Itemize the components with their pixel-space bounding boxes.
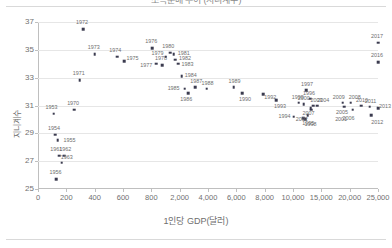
data-point[interactable] [305,89,308,92]
data-point-label: 1962 [59,146,71,152]
x-tickmark-600 [123,189,124,192]
x-tick-label-4000: 4,000 [199,194,218,202]
y-tickmark-35 [35,50,38,51]
gridline-y-33 [38,78,378,79]
figure-top-rule [6,6,386,7]
data-point-label: 1977 [140,62,152,68]
data-point[interactable] [351,108,354,111]
data-point-label: 2013 [379,103,391,109]
data-point[interactable] [52,113,55,116]
data-point[interactable] [169,51,172,54]
data-point[interactable] [309,107,312,110]
x-tick-label-200: 200 [60,194,73,202]
data-point-label: 2012 [371,119,383,125]
data-point[interactable] [155,62,158,65]
data-point[interactable] [377,61,380,64]
data-point[interactable] [275,99,278,102]
y-axis-label: 지니계수 [13,110,22,138]
data-point[interactable] [232,86,235,89]
data-point-label: 1998 [304,121,316,127]
data-point[interactable] [78,79,81,82]
data-point-label: 1955 [64,137,76,143]
data-point[interactable] [54,133,57,136]
x-tick-label-6000: 6,000 [227,194,246,202]
y-tick-label-37: 37 [25,18,34,26]
x-tick-label-25000: 25,000 [367,194,390,202]
x-tickmark-10000 [293,189,294,192]
y-tick-label-31: 31 [25,102,34,110]
x-axis-label: 1인당 GDP(달러) [0,216,392,226]
data-point-label: 1973 [88,44,100,50]
y-tick-label-27: 27 [25,157,34,165]
data-point[interactable] [164,55,167,58]
data-point[interactable] [183,88,186,91]
data-point[interactable] [187,92,190,95]
data-point-label: 1975 [126,55,138,61]
data-point[interactable] [93,53,96,56]
data-point-label: 1997 [301,81,313,87]
gridline-y-27 [38,161,378,162]
data-point[interactable] [82,28,85,31]
data-point-label: 1979 [152,50,164,56]
data-point-label: 2016 [371,52,383,58]
data-point[interactable] [342,101,345,104]
data-point[interactable] [61,161,64,164]
x-tickmark-25000 [378,189,379,192]
data-point-label: 2006 [343,115,355,121]
x-tickmark-400 [95,189,96,192]
data-point-label: 2000 [298,95,310,101]
data-point[interactable] [241,92,244,95]
data-point[interactable] [55,178,58,181]
data-point[interactable] [377,42,380,45]
data-point-label: 2002 [296,116,308,122]
data-point-label: 2007 [303,110,315,116]
x-tickmark-15000 [321,189,322,192]
data-point[interactable] [205,88,208,91]
data-point[interactable] [360,104,363,107]
data-point-label: 1987 [190,78,202,84]
x-tick-label-400: 400 [88,194,101,202]
data-point-label: 1986 [180,96,192,102]
data-point-label: 1954 [48,125,60,131]
y-tickmark-27 [35,161,38,162]
data-point[interactable] [343,106,346,109]
data-point[interactable] [174,58,177,61]
data-point[interactable] [73,108,76,111]
data-point-label: 1980 [162,43,174,49]
y-tickmark-29 [35,133,38,134]
data-point-label: 1989 [229,78,241,84]
data-point[interactable] [316,104,319,107]
data-point[interactable] [312,104,315,107]
data-point[interactable] [172,53,175,56]
data-point[interactable] [302,103,305,106]
data-point[interactable] [123,60,126,63]
data-point[interactable] [116,55,119,58]
data-point[interactable] [297,101,300,104]
data-point-label: 1985 [168,85,180,91]
data-point-label: 1972 [76,19,88,25]
data-point-label: 2004 [317,97,329,103]
data-point[interactable] [161,64,164,67]
data-point[interactable] [368,106,371,109]
data-point[interactable] [350,101,353,104]
x-tick-label-600: 600 [117,194,130,202]
data-point[interactable] [292,115,295,118]
y-tickmark-31 [35,106,38,107]
data-point-label: 1971 [73,70,85,76]
data-point-label: 1974 [109,47,121,53]
data-point[interactable] [194,86,197,89]
data-point-label: 2017 [371,33,383,39]
data-point[interactable] [177,62,180,65]
data-point[interactable] [370,114,373,117]
x-tick-label-2000: 2,000 [170,194,189,202]
x-tickmark-200 [66,189,67,192]
data-point[interactable] [180,75,183,78]
data-point-label: 1994 [279,113,291,119]
y-tick-label-29: 29 [25,129,34,137]
x-tick-label-800: 800 [145,194,158,202]
plot-area: 2527293133353702004006008002,0004,0006,0… [38,22,378,189]
data-point-label: 1993 [274,103,286,109]
data-point[interactable] [56,139,59,142]
x-tickmark-2000 [180,189,181,192]
y-tick-label-35: 35 [25,46,34,54]
